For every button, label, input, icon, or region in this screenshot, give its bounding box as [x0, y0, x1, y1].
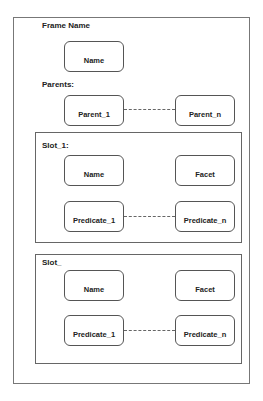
parent-last-box: Parent_n	[175, 95, 235, 126]
slot-n-name-label: Name	[65, 285, 123, 294]
slot-1-predicates-dashed-connector	[124, 216, 175, 217]
slot-1-facet-box: Facet	[175, 155, 235, 186]
frame-name-box: Name	[64, 41, 124, 72]
parent-first-box: Parent_1	[64, 95, 124, 126]
slot-n-predicate-first-box: Predicate_1	[64, 315, 124, 346]
slot-1-predicate-last-label: Predicate_n	[176, 216, 234, 225]
parents-label: Parents:	[42, 80, 74, 89]
slot-n-predicate-first-label: Predicate_1	[65, 330, 123, 339]
parent-first-label: Parent_1	[65, 110, 123, 119]
slot-1-predicate-first-label: Predicate_1	[65, 216, 123, 225]
slot-n-facet-box: Facet	[175, 270, 235, 301]
parents-dashed-connector	[124, 109, 175, 110]
slot-1-name-box: Name	[64, 155, 124, 186]
slot-n-predicates-dashed-connector	[124, 330, 175, 331]
slot-1-label: Slot_1:	[42, 141, 69, 150]
frame-title: Frame Name	[42, 21, 90, 30]
parent-last-label: Parent_n	[176, 110, 234, 119]
slot-n-label: Slot_	[42, 258, 62, 267]
slot-1-facet-label: Facet	[176, 170, 234, 179]
slot-1-predicate-last-box: Predicate_n	[175, 201, 235, 232]
frame-name-label: Name	[65, 56, 123, 65]
slot-1-predicate-first-box: Predicate_1	[64, 201, 124, 232]
slot-1-name-label: Name	[65, 170, 123, 179]
slot-n-predicate-last-label: Predicate_n	[176, 330, 234, 339]
slot-n-predicate-last-box: Predicate_n	[175, 315, 235, 346]
slot-n-facet-label: Facet	[176, 285, 234, 294]
slot-n-name-box: Name	[64, 270, 124, 301]
